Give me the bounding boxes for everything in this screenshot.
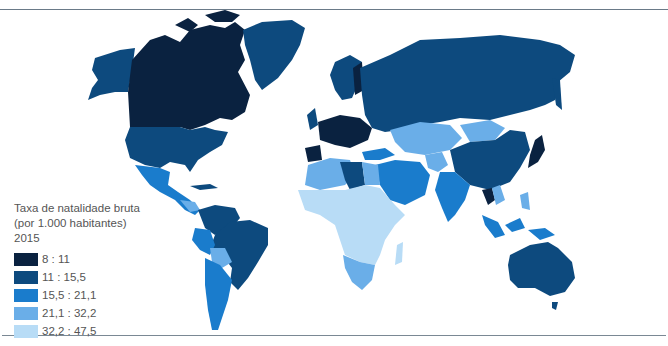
region-uk <box>307 108 318 130</box>
region-caribbean <box>190 184 218 190</box>
legend-label: 15,5 : 21,1 <box>42 288 96 303</box>
legend-item: 21,1 : 32,2 <box>14 304 140 322</box>
legend-item: 32,2 : 47,5 <box>14 322 140 340</box>
region-philippines <box>520 192 530 210</box>
legend-label: 32,2 : 47,5 <box>42 324 96 339</box>
region-madagascar <box>395 242 403 265</box>
region-afghanistan <box>425 152 448 172</box>
region-usa <box>125 127 228 172</box>
legend-item: 11 : 15,5 <box>14 268 140 286</box>
legend-swatch <box>14 253 38 266</box>
region-indonesia <box>482 215 555 240</box>
legend-label: 21,1 : 32,2 <box>42 306 96 321</box>
region-iberia <box>305 145 322 162</box>
region-australia <box>508 242 575 296</box>
region-japan <box>528 135 545 168</box>
region-greenland <box>243 20 305 90</box>
region-turkey <box>362 148 395 160</box>
region-alaska <box>88 48 135 100</box>
legend: Taxa de natalidade bruta (por 1.000 habi… <box>14 201 140 340</box>
legend-swatch <box>14 307 38 320</box>
legend-title-line1: Taxa de natalidade bruta <box>14 201 140 216</box>
legend-items: 8 : 11 11 : 15,5 15,5 : 21,1 21,1 : 32,2… <box>14 250 140 340</box>
legend-label: 8 : 11 <box>42 252 70 267</box>
legend-swatch <box>14 271 38 284</box>
legend-item: 15,5 : 21,1 <box>14 286 140 304</box>
legend-swatch <box>14 289 38 302</box>
region-canada <box>128 22 250 130</box>
legend-title-line2: (por 1.000 habitantes) <box>14 216 140 231</box>
legend-title: Taxa de natalidade bruta (por 1.000 habi… <box>14 201 140 246</box>
region-central-europe <box>318 115 372 148</box>
region-indochina <box>492 185 505 205</box>
legend-year: 2015 <box>14 231 140 246</box>
legend-item: 8 : 11 <box>14 250 140 268</box>
legend-label: 11 : 15,5 <box>42 270 86 285</box>
region-argentina-chile <box>205 258 232 330</box>
region-russia <box>360 35 575 132</box>
region-tasmania <box>552 302 558 310</box>
legend-swatch <box>14 325 38 338</box>
region-egypt <box>362 162 380 185</box>
